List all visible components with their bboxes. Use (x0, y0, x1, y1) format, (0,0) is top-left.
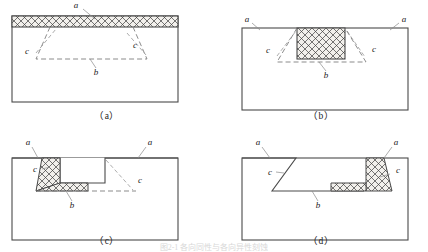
leader-line-a-left-c (32, 147, 38, 158)
label-a-right-d: a (394, 137, 399, 147)
panel-b: a a c c b （b） (214, 0, 428, 125)
leader-line-a-left-d (262, 147, 270, 158)
panel-c-diagram: a a c c b (0, 125, 214, 250)
label-c-right-d: c (396, 165, 400, 175)
label-c-left-a: c (25, 46, 29, 56)
leader-line-a-right-d (384, 147, 392, 158)
panel-a: a c c b （a） (0, 0, 214, 125)
panel-d-diagram: a a c c b (214, 125, 428, 250)
mask-block-b (297, 28, 345, 59)
label-c-left-c: c (33, 164, 37, 174)
label-c-right-c: c (138, 175, 142, 185)
label-a-right-c: a (148, 137, 153, 147)
leader-line-a-right-c (138, 147, 146, 158)
label-a-left-b: a (245, 14, 250, 24)
panel-b-diagram: a a c c b (214, 0, 428, 125)
panel-b-caption: （b） (214, 108, 428, 122)
label-a-left-c: a (26, 137, 31, 147)
label-c-left-b: c (266, 45, 270, 55)
label-b-b: b (324, 70, 329, 80)
label-a-top: a (74, 0, 79, 10)
film-layer-a (12, 16, 178, 27)
label-a-right-b: a (402, 14, 407, 24)
panel-a-diagram: a c c b (0, 0, 214, 125)
label-a-left-d: a (256, 137, 261, 147)
label-b-d: b (316, 200, 321, 210)
panel-c: a a c c b （c） (0, 125, 214, 250)
label-b-c: b (70, 200, 75, 210)
panel-d: a a c c b （d） (214, 125, 428, 250)
label-c-right-b: c (372, 44, 376, 54)
label-c-left-d: c (268, 167, 272, 177)
label-c-right-a: c (133, 40, 137, 50)
figure-caption: 图2-1 各向同性与各向异性刻蚀 (0, 241, 428, 252)
panel-a-caption: （a） (0, 108, 214, 122)
floor-deposit-d (331, 183, 366, 191)
label-b-a: b (94, 67, 99, 77)
